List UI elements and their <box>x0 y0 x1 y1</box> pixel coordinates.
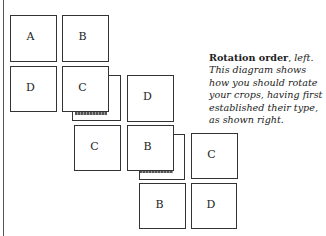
crop-box-d-final: D <box>191 183 237 229</box>
crop-box-d: D <box>10 66 57 112</box>
crop-label: D <box>143 90 152 103</box>
crop-label: C <box>207 148 215 161</box>
crop-label: A <box>27 30 35 43</box>
crop-box-c-final: C <box>191 133 238 179</box>
left-margin-rule <box>3 0 4 236</box>
crop-label: D <box>26 81 35 94</box>
crop-box-c-rotating: C <box>62 66 109 112</box>
crop-label: B <box>143 140 151 153</box>
crop-label: C <box>90 140 98 153</box>
crop-label: D <box>207 198 216 211</box>
caption-title: Rotation order <box>209 52 288 63</box>
crop-box-b: B <box>62 15 109 62</box>
caption-direction: left. <box>294 52 313 63</box>
crop-box-a: A <box>10 15 57 62</box>
crop-label: B <box>78 30 86 43</box>
diagram-caption: Rotation order, left. This diagram shows… <box>209 52 326 126</box>
crop-box-c-rotated: C <box>74 125 121 171</box>
crop-label: B <box>155 198 163 211</box>
caption-body: This diagram shows how you should rotate… <box>209 64 322 125</box>
crop-label: C <box>78 81 86 94</box>
crop-box-b-final: B <box>139 183 186 229</box>
crop-box-b-rotating: B <box>127 125 174 171</box>
crop-box-d-rotated: D <box>127 75 174 122</box>
crop-shadow <box>75 112 107 115</box>
